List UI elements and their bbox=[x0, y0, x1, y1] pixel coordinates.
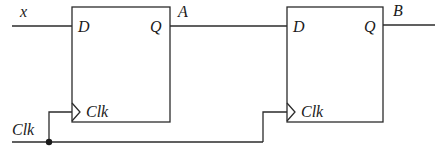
flip-flop-2-q-label: Q bbox=[364, 18, 376, 35]
flip-flop-1-d-label: D bbox=[77, 18, 90, 35]
flip-flop-2-clk-label: Clk bbox=[301, 103, 324, 120]
flip-flop-2-d-label: D bbox=[292, 18, 305, 35]
flip-flop-1-q-label: Q bbox=[150, 18, 162, 35]
shift-register-diagram: x D Q Clk A D Q Clk B Clk bbox=[0, 0, 435, 154]
output-b-label: B bbox=[393, 2, 403, 19]
flip-flop-1: D Q Clk bbox=[72, 7, 170, 122]
output-a-label: A bbox=[177, 3, 188, 20]
clock-input-label: Clk bbox=[12, 121, 35, 138]
flip-flop-2: D Q Clk bbox=[287, 7, 383, 122]
clock-branch-ff2 bbox=[263, 112, 287, 142]
junction-dot-icon bbox=[46, 139, 52, 145]
input-x-label: x bbox=[19, 3, 27, 20]
clock-branch-ff1 bbox=[49, 112, 72, 142]
flip-flop-1-clk-label: Clk bbox=[86, 103, 109, 120]
